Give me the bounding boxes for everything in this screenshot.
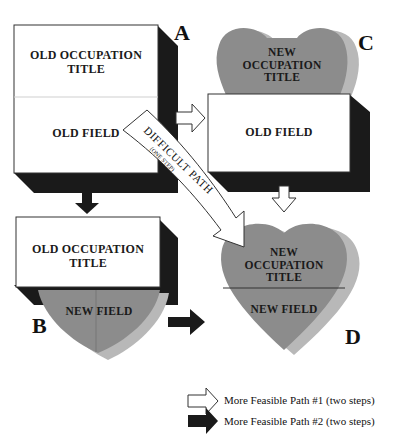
white-arrow-a-to-c	[176, 104, 205, 132]
node-d-field: NEW FIELD	[222, 302, 346, 316]
node-c-title-line3: TITLE	[219, 71, 345, 84]
node-d-title-line2: OCCUPATION	[222, 259, 346, 272]
node-a-title-line2: TITLE	[14, 62, 158, 76]
node-a-title-line1: OLD OCCUPATION	[14, 48, 158, 62]
node-c-title-line1: NEW	[219, 46, 345, 59]
black-arrow-b-to-d	[168, 309, 205, 335]
node-d-title-line3: TITLE	[222, 271, 346, 284]
node-d-title-line1: NEW	[222, 246, 346, 259]
node-d-title: NEW OCCUPATION TITLE	[222, 246, 346, 284]
node-b-title-line2: TITLE	[16, 256, 160, 270]
node-b-title-line1: OLD OCCUPATION	[16, 242, 160, 256]
node-c-title: NEW OCCUPATION TITLE	[219, 46, 345, 84]
node-c-title-line2: OCCUPATION	[219, 59, 345, 72]
black-arrow-a-to-b	[75, 193, 99, 214]
legend-item-2-label: More Feasible Path #2 (two steps)	[224, 415, 375, 427]
legend-black-arrow-icon	[188, 408, 218, 434]
node-b-title: OLD OCCUPATION TITLE	[16, 242, 160, 270]
node-a-title: OLD OCCUPATION TITLE	[14, 48, 158, 76]
node-a-field: OLD FIELD	[14, 126, 158, 140]
node-d-letter: D	[345, 324, 361, 350]
node-b-field: NEW FIELD	[38, 304, 160, 318]
legend-white-arrow-icon	[188, 388, 218, 414]
node-c-letter: C	[358, 30, 374, 56]
legend-item-1-label: More Feasible Path #1 (two steps)	[224, 394, 375, 406]
node-a-letter: A	[174, 20, 190, 46]
node-c-field: OLD FIELD	[208, 125, 350, 139]
